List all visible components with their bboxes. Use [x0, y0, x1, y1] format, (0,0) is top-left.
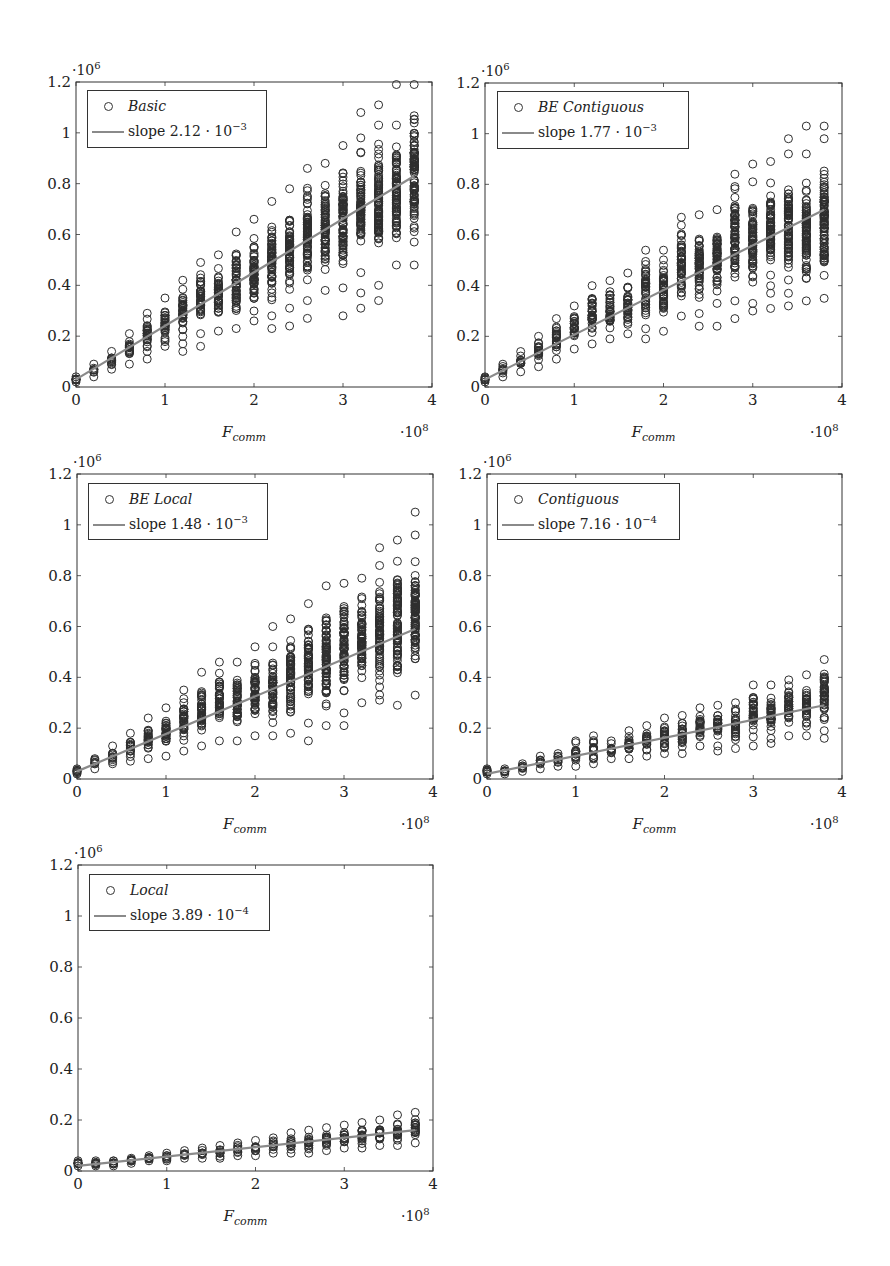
legend-series-label: Basic	[128, 94, 166, 118]
x-tick-label: 4	[428, 1175, 438, 1193]
legend-series-label: Local	[130, 878, 168, 902]
legend-series-label: BE Contiguous	[538, 95, 644, 119]
y-tick-label: 0.2	[458, 719, 482, 737]
scatter-points	[483, 656, 828, 778]
legend-fit-label: slope 2.12 · 10−3	[128, 119, 247, 143]
legend-entry-fit: slope 2.12 · 10−3	[88, 119, 266, 143]
y-tick-label: 0	[63, 1162, 73, 1180]
legend-entry-fit: slope 1.77 · 10−3	[498, 120, 688, 144]
x-axis-title: Fcomm	[222, 1207, 267, 1228]
y-tick-label: 0.4	[49, 1060, 73, 1078]
y-tick-label: 0.6	[458, 618, 482, 636]
circle-marker-icon	[514, 495, 523, 504]
circle-marker-icon	[106, 886, 115, 895]
legend-entry-series: Contiguous	[498, 487, 679, 511]
y-tick-label: 1	[63, 907, 73, 925]
circle-marker-icon	[104, 102, 113, 111]
legend-series-label: Contiguous	[538, 487, 619, 511]
x-tick-label: 2	[660, 783, 670, 801]
y-tick-label: 0	[472, 770, 482, 788]
legend-local: Localslope 3.89 · 10−4	[89, 874, 270, 931]
legend-fit-label: slope 1.48 · 10−3	[129, 512, 248, 536]
legend-contiguous: Contiguousslope 7.16 · 10−4	[497, 483, 680, 540]
line-sample-icon	[502, 524, 534, 526]
y-tick-label: 1	[472, 516, 482, 534]
legend-basic: Basicslope 2.12 · 10−3	[87, 90, 267, 148]
legend-entry-fit: slope 3.89 · 10−4	[90, 903, 269, 927]
x-multiplier: ·108	[401, 1206, 430, 1224]
y-tick-label: 0.2	[49, 1111, 73, 1129]
line-sample-icon	[93, 524, 125, 526]
chart-svg: 0123400.20.40.60.811.2·106·108Fcomm	[0, 0, 445, 1230]
y-tick-label: 1.2	[458, 465, 482, 483]
circle-marker-icon	[105, 495, 114, 504]
legend-entry-fit: slope 1.48 · 10−3	[89, 512, 267, 536]
line-sample-icon	[92, 131, 124, 133]
x-tick-label: 0	[482, 783, 492, 801]
legend-series-label: BE Local	[129, 487, 192, 511]
legend-entry-series: Basic	[88, 94, 266, 118]
x-tick-label: 0	[73, 1175, 83, 1193]
legend-fit-label: slope 7.16 · 10−4	[538, 512, 657, 536]
fit-line	[487, 705, 824, 774]
x-tick-label: 1	[571, 783, 581, 801]
line-sample-icon	[94, 915, 126, 917]
circle-marker-icon	[514, 103, 523, 112]
x-tick-label: 2	[251, 1175, 261, 1193]
legend-fit-label: slope 3.89 · 10−4	[130, 903, 249, 927]
y-tick-label: 0.8	[458, 567, 482, 585]
legend-entry-series: Local	[90, 878, 269, 902]
chart-panel-local: 0123400.20.40.60.811.2·106·108Fcomm	[0, 0, 445, 1230]
x-axis-title: Fcomm	[631, 815, 676, 836]
legend-be-local: BE Localslope 1.48 · 10−3	[88, 483, 268, 540]
x-tick-label: 4	[837, 783, 847, 801]
fit-line	[78, 1130, 415, 1166]
legend-be-contiguous: BE Contiguousslope 1.77 · 10−3	[497, 91, 689, 149]
legend-entry-fit: slope 7.16 · 10−4	[498, 512, 679, 536]
y-multiplier: ·106	[483, 452, 512, 470]
y-tick-label: 0.4	[458, 668, 482, 686]
x-multiplier: ·108	[810, 814, 839, 832]
y-tick-label: 0.8	[49, 958, 73, 976]
x-tick-label: 3	[339, 1175, 349, 1193]
x-tick-label: 3	[748, 783, 758, 801]
x-tick-label: 1	[162, 1175, 172, 1193]
line-sample-icon	[502, 132, 534, 134]
y-tick-label: 1.2	[49, 856, 73, 874]
legend-entry-series: BE Contiguous	[498, 95, 688, 119]
y-multiplier: ·106	[74, 843, 103, 861]
legend-fit-label: slope 1.77 · 10−3	[538, 120, 657, 144]
y-tick-label: 0.6	[49, 1009, 73, 1027]
legend-entry-series: BE Local	[89, 487, 267, 511]
